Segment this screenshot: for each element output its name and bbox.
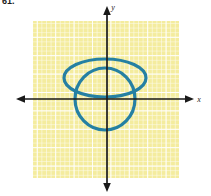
x-axis-left-arrow [16,95,25,103]
coordinate-plane-plot: x y [0,0,211,196]
x-axis-right-arrow [185,95,194,103]
y-axis-label: y [110,3,115,12]
figure-container: 61. [0,0,211,196]
y-axis-bottom-arrow [103,183,111,192]
x-axis-label: x [196,95,201,104]
y-axis-top-arrow [103,6,111,15]
